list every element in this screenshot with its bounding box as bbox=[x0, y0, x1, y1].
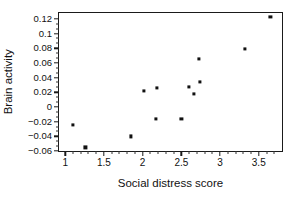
y-tick-label: −0.06 bbox=[28, 146, 52, 156]
y-tick-label: 0 bbox=[47, 102, 52, 112]
x-minor-tick-mark bbox=[274, 151, 275, 154]
x-minor-tick-mark bbox=[150, 151, 151, 154]
x-minor-tick-mark bbox=[127, 151, 128, 154]
x-tick-mark bbox=[219, 151, 220, 156]
data-point bbox=[192, 92, 195, 95]
data-point bbox=[187, 86, 190, 89]
y-axis-title: Brain activity bbox=[2, 12, 16, 152]
y-tick-label: 0.02 bbox=[34, 88, 53, 98]
x-minor-tick-mark bbox=[165, 151, 166, 154]
plot-area: 0.120.10.080.060.040.020−0.02−0.04−0.06 … bbox=[58, 12, 283, 152]
x-tick-label: 2.5 bbox=[174, 158, 188, 168]
x-tick-mark bbox=[142, 151, 143, 156]
data-point bbox=[243, 47, 246, 50]
data-point bbox=[269, 15, 272, 18]
x-minor-tick-mark bbox=[212, 151, 213, 154]
x-minor-tick-mark bbox=[158, 151, 159, 154]
x-tick-label: 1.5 bbox=[97, 158, 111, 168]
x-tick-label: 2 bbox=[140, 158, 146, 168]
x-minor-tick-mark bbox=[266, 151, 267, 154]
x-minor-tick-mark bbox=[96, 151, 97, 154]
x-minor-tick-mark bbox=[189, 151, 190, 154]
x-tick-label: 3.5 bbox=[252, 158, 266, 168]
x-minor-tick-mark bbox=[251, 151, 252, 154]
y-axis-title-text: Brain activity bbox=[3, 49, 15, 114]
y-tick-label: −0.02 bbox=[28, 117, 52, 127]
y-tick-label: 0.04 bbox=[34, 73, 53, 83]
scatter-plot-figure: Brain activity 0.120.10.080.060.040.020−… bbox=[0, 0, 298, 205]
data-point bbox=[198, 80, 201, 83]
data-point bbox=[84, 146, 87, 149]
data-point bbox=[154, 117, 157, 120]
data-point bbox=[143, 89, 146, 92]
x-minor-tick-mark bbox=[204, 151, 205, 154]
x-tick-mark bbox=[103, 151, 104, 156]
x-tick-mark bbox=[181, 151, 182, 156]
x-minor-tick-mark bbox=[235, 151, 236, 154]
y-tick-label: 0.08 bbox=[34, 43, 53, 53]
x-axis-title: Social distress score bbox=[58, 178, 283, 190]
data-point bbox=[198, 58, 201, 61]
x-tick-mark bbox=[64, 151, 65, 156]
data-point bbox=[155, 86, 158, 89]
x-minor-tick-mark bbox=[72, 151, 73, 154]
x-minor-tick-mark bbox=[173, 151, 174, 154]
data-points-layer bbox=[59, 13, 282, 151]
data-point bbox=[129, 135, 132, 138]
x-minor-tick-mark bbox=[243, 151, 244, 154]
x-tick-mark bbox=[258, 151, 259, 156]
x-minor-tick-mark bbox=[80, 151, 81, 154]
x-minor-tick-mark bbox=[134, 151, 135, 154]
x-axis-title-text: Social distress score bbox=[118, 177, 223, 189]
y-tick-label: 0.12 bbox=[34, 14, 53, 24]
y-tick-label: 0.1 bbox=[39, 29, 52, 39]
x-minor-tick-mark bbox=[88, 151, 89, 154]
y-tick-label: 0.06 bbox=[34, 58, 53, 68]
x-minor-tick-mark bbox=[196, 151, 197, 154]
x-tick-label: 3 bbox=[217, 158, 223, 168]
data-point bbox=[180, 117, 183, 120]
x-tick-label: 1 bbox=[62, 158, 68, 168]
data-point bbox=[71, 124, 74, 127]
y-tick-label: −0.04 bbox=[28, 132, 52, 142]
x-minor-tick-mark bbox=[119, 151, 120, 154]
x-minor-tick-mark bbox=[111, 151, 112, 154]
x-minor-tick-mark bbox=[227, 151, 228, 154]
